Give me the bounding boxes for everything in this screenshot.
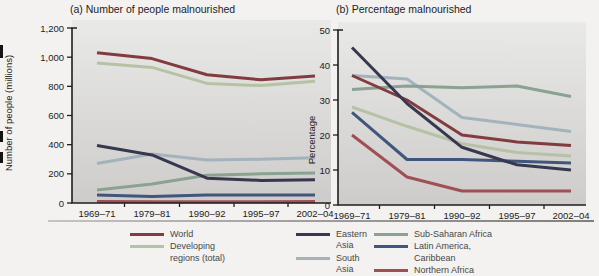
figure-divider-rule [48, 220, 594, 222]
y-tick-label: 200 [48, 168, 64, 179]
legend-label: South Asia [336, 253, 376, 276]
y-tick-label: 1,200 [40, 23, 64, 34]
y-tick-label: 0 [325, 200, 330, 211]
panel-title: (a) Number of people malnourished [70, 3, 235, 15]
legend-column-1: WorldDeveloping regions (total) [130, 229, 242, 264]
page-edge-artifact [0, 45, 3, 58]
legend-item-eastern-asia: Eastern Asia [296, 229, 376, 252]
legend-label: Latin America, Caribbean [414, 241, 514, 264]
y-tick-label: 20 [319, 130, 330, 141]
y-tick-label: 800 [48, 81, 64, 92]
legend-swatch-latin-america-caribbean [374, 245, 408, 248]
x-tick-label: 1979–81 [134, 208, 171, 219]
legend-item-developing-regions-total: Developing regions (total) [130, 241, 242, 264]
panel-title: (b) Percentage malnourished [336, 3, 472, 15]
y-tick-label: 400 [48, 139, 64, 150]
y-tick-label: 1,000 [40, 52, 64, 63]
y-tick-label: 0 [59, 198, 64, 209]
legend-swatch-northern-africa [374, 269, 408, 272]
x-tick-label: 1995–97 [243, 208, 280, 219]
legend-label: Eastern Asia [336, 229, 376, 252]
legend-label: World [170, 229, 193, 240]
legend-column-3: Sub-Saharan AfricaLatin America, Caribbe… [374, 229, 514, 276]
legend-item-northern-africa: Northern Africa [374, 265, 514, 276]
legend-item-sub-saharan-africa: Sub-Saharan Africa [374, 229, 514, 240]
legend-label: Northern Africa [414, 265, 474, 276]
legend-swatch-sub-saharan-africa [374, 233, 408, 236]
y-tick-label: 50 [319, 25, 330, 36]
legend-swatch-world [130, 233, 164, 236]
y-axis-label: Number of people (millions) [3, 55, 14, 171]
legend-item-south-asia: South Asia [296, 253, 376, 276]
page-edge-artifact [0, 152, 3, 163]
x-tick-label: 1990–92 [189, 208, 226, 219]
legend-swatch-eastern-asia [296, 233, 330, 236]
y-tick-label: 30 [319, 95, 330, 106]
y-tick-label: 600 [48, 110, 64, 121]
x-tick-label: 1969–71 [79, 208, 116, 219]
legend-item-latin-america-caribbean: Latin America, Caribbean [374, 241, 514, 264]
legend-swatch-south-asia [296, 257, 330, 260]
dual-line-chart: 02004006008001,0001,2001969–711979–81199… [0, 0, 599, 226]
y-tick-label: 40 [319, 60, 330, 71]
legend-label: Developing regions (total) [170, 241, 234, 264]
series-line-latin-america-caribbean [97, 195, 315, 196]
y-axis-label: Percentage [306, 116, 317, 165]
legend-column-2: Eastern AsiaSouth Asia [296, 229, 376, 275]
legend-item-world: World [130, 229, 242, 240]
legend-swatch-developing-regions-total [130, 245, 164, 248]
plot-background [338, 22, 586, 205]
panel-a: 02004006008001,0001,2001969–711979–81199… [3, 3, 333, 219]
y-tick-label: 10 [319, 165, 330, 176]
page-edge-artifact [0, 131, 3, 142]
legend-label: Sub-Saharan Africa [414, 229, 492, 240]
panel-b: 010203040501969–711979–811990–921995–972… [306, 3, 589, 221]
